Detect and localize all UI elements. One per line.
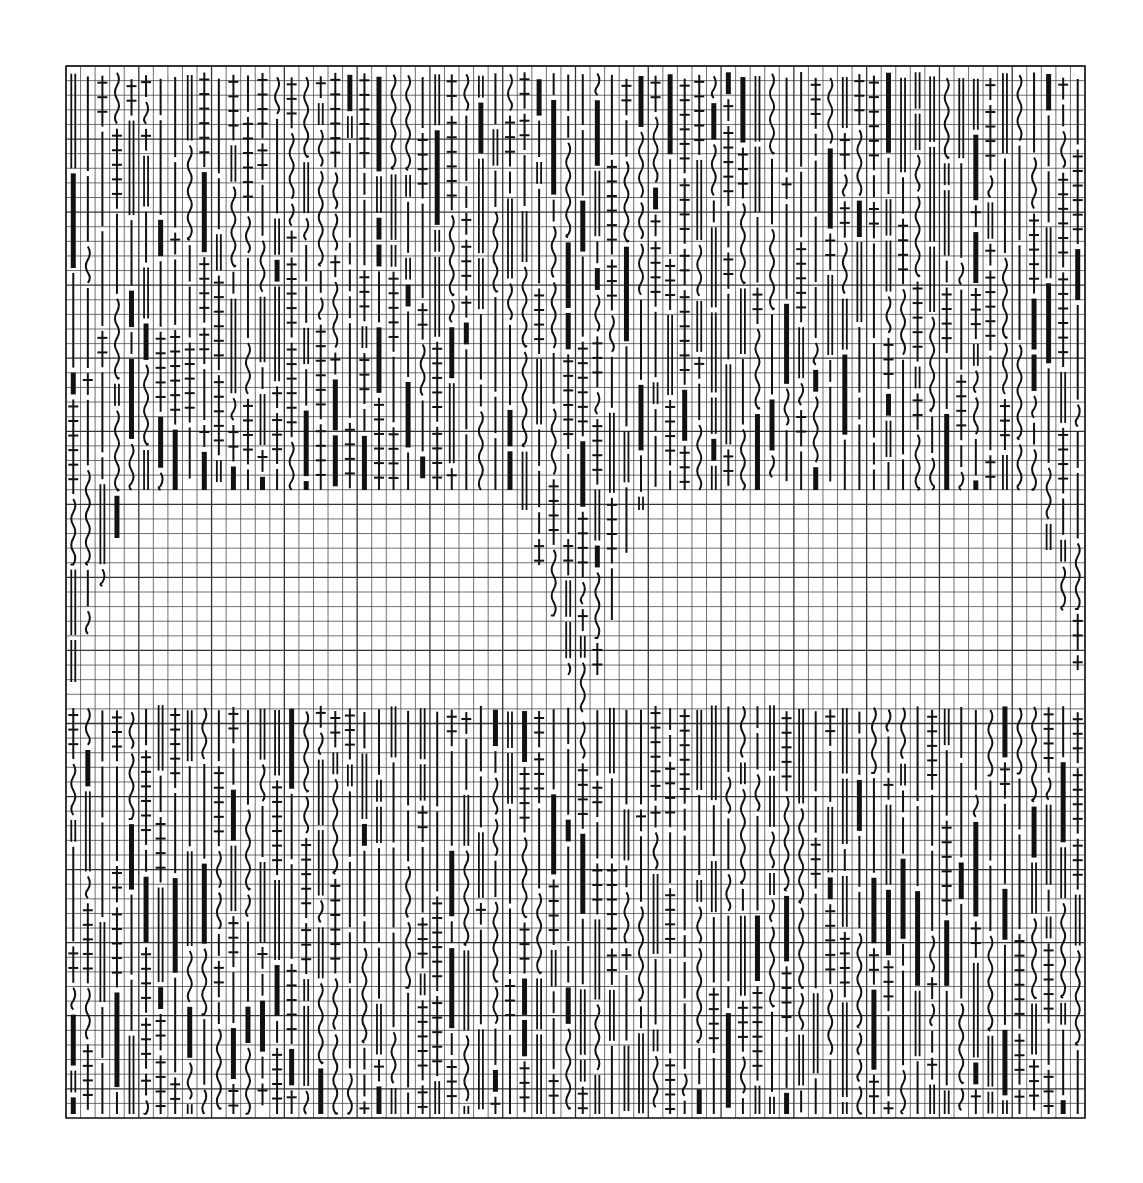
- grid-artwork: [0, 0, 1143, 1183]
